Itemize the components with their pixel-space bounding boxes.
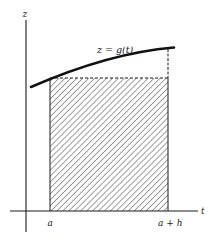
hatched-region: [50, 78, 168, 211]
a-plus-h-label: a + h: [158, 218, 182, 228]
t-axis-label: t: [201, 206, 205, 216]
z-axis-label: z: [22, 9, 28, 19]
integral-rectangle-diagram: z t z = g(t) a a + h: [0, 0, 216, 239]
a-label: a: [48, 218, 53, 228]
curve-label: z = g(t): [96, 44, 134, 55]
